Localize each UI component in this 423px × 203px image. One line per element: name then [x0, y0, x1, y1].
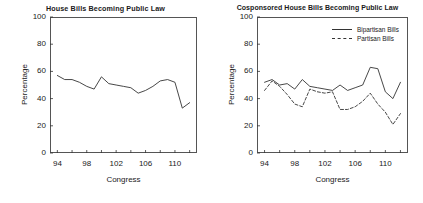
x-tick-label: 110: [371, 159, 399, 168]
chart-panel-left: House Bills Becoming Public Law Percenta…: [0, 0, 211, 203]
legend-label-partisan: Partisan Bills: [357, 34, 394, 43]
y-tick-label: 0: [213, 148, 253, 157]
x-tick-label: 94: [251, 159, 279, 168]
x-tick-label: 98: [281, 159, 309, 168]
legend-label-bipartisan: Bipartisan Bills: [357, 25, 399, 34]
y-tick-label: 100: [213, 12, 253, 21]
panel-left-x-axis-label: Congress: [50, 175, 197, 184]
x-tick-label: 102: [311, 159, 339, 168]
panel-left-y-axis-label: Percentage: [20, 17, 29, 153]
chart-panel-right: Cosponsored House Bills Becoming Public …: [212, 0, 423, 203]
x-tick-label: 106: [341, 159, 369, 168]
x-tick-label: 94: [43, 159, 71, 168]
y-tick-label: 80: [213, 39, 253, 48]
x-tick-label: 106: [132, 159, 160, 168]
y-tick-label: 0: [6, 148, 46, 157]
y-tick-label: 60: [6, 66, 46, 75]
legend-line-dashed-icon: [332, 38, 352, 39]
y-tick-label: 40: [6, 94, 46, 103]
y-tick-label: 100: [6, 12, 46, 21]
y-tick-label: 40: [213, 94, 253, 103]
y-tick-label: 80: [6, 39, 46, 48]
y-tick-label: 20: [213, 121, 253, 130]
x-tick-label: 98: [73, 159, 101, 168]
y-tick-label: 20: [6, 121, 46, 130]
legend-line-solid-icon: [332, 29, 352, 30]
panel-right-y-axis-label: Percentage: [227, 17, 236, 153]
panel-right-x-axis-label: Congress: [257, 175, 408, 184]
panel-right-title: Cosponsored House Bills Becoming Public …: [212, 4, 423, 11]
figure-canvas: House Bills Becoming Public Law Percenta…: [0, 0, 423, 203]
x-tick-label: 102: [102, 159, 130, 168]
panel-left-plot-frame: [50, 17, 197, 153]
y-tick-label: 60: [213, 66, 253, 75]
x-tick-label: 110: [161, 159, 189, 168]
